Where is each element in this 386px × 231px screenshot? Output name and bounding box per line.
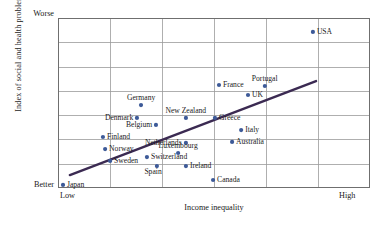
data-point-label: Japan xyxy=(67,181,84,189)
data-point xyxy=(101,135,105,139)
data-point xyxy=(246,93,250,97)
plot-svg xyxy=(58,18,370,188)
data-point xyxy=(230,140,234,144)
data-point-label: Netherlands xyxy=(145,139,182,147)
data-point-label: Australia xyxy=(236,138,264,146)
x-axis-title: Income inequality xyxy=(58,203,370,212)
data-point xyxy=(184,116,188,120)
x-axis-tick-high: High xyxy=(339,191,355,200)
data-point xyxy=(154,123,158,127)
data-point-label: Italy xyxy=(245,126,259,134)
data-point-label: USA xyxy=(317,28,332,36)
data-point-label: UK xyxy=(252,91,263,99)
data-point-label: Spain xyxy=(144,168,161,176)
data-point xyxy=(217,83,221,87)
data-point-label: Canada xyxy=(217,176,240,184)
data-point xyxy=(103,147,107,151)
data-point xyxy=(108,159,112,163)
data-point xyxy=(61,183,65,187)
data-point xyxy=(211,178,215,182)
scatter-chart-figure: Index of social and health problems Wors… xyxy=(0,0,386,231)
data-point-label: Finland xyxy=(107,133,130,141)
data-point-label: New Zealand xyxy=(165,107,206,115)
data-point xyxy=(239,128,243,132)
plot-area xyxy=(58,18,370,188)
data-point-label: Germany xyxy=(127,94,155,102)
data-point xyxy=(213,116,217,120)
data-point xyxy=(311,30,315,34)
data-point xyxy=(263,84,267,88)
data-point xyxy=(139,103,143,107)
data-point xyxy=(184,164,188,168)
y-axis-tick-better: Better xyxy=(6,180,54,189)
data-point-label: Portugal xyxy=(252,75,278,83)
data-point-label: Greece xyxy=(219,114,241,122)
data-point xyxy=(145,155,149,159)
y-axis-tick-worse: Worse xyxy=(6,9,54,18)
data-point-label: France xyxy=(223,81,244,89)
data-point-label: Belgium xyxy=(126,121,152,129)
data-point-label: Sweden xyxy=(114,157,138,165)
y-axis-title: Index of social and health problems xyxy=(14,0,23,132)
data-point-label: Ireland xyxy=(190,162,212,170)
x-axis-tick-low: Low xyxy=(60,191,75,200)
data-point-label: Switzerland xyxy=(151,153,187,161)
data-point-label: Norway xyxy=(109,145,133,153)
